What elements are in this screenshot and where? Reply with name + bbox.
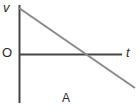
velocity-time-graph-figure: v O t A — [0, 0, 139, 111]
panel-label: A — [62, 92, 70, 104]
origin-label: O — [2, 46, 12, 59]
y-axis-label: v — [3, 1, 10, 14]
x-axis-label: t — [126, 46, 130, 59]
